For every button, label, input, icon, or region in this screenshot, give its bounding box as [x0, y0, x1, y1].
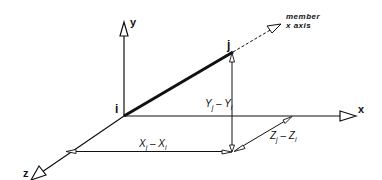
x-axis [124, 111, 356, 121]
member-x-axis-label: member x axis [286, 12, 320, 30]
member-label-line1: member [286, 12, 320, 21]
dy-var-i: Y [224, 98, 231, 109]
dz-op: – [278, 130, 289, 141]
y-axis-label: y [130, 17, 136, 28]
member-x-axis-extension [233, 24, 281, 52]
dx-label: Xj – Xi [139, 139, 167, 151]
y-axis-arrowhead-icon [120, 22, 128, 36]
dx-var-j: X [139, 138, 146, 149]
member-label-line2: x axis [286, 21, 320, 30]
dz-label: Zj – Zi [270, 131, 296, 143]
dx-arrowhead-left-icon [66, 150, 76, 154]
dy-sub-i: i [231, 104, 233, 111]
z-axis-label: z [23, 168, 29, 179]
dx-op: – [147, 138, 158, 149]
dz-arrowhead-lower-icon [234, 145, 245, 152]
member-geometry-diagram [0, 0, 382, 180]
dy-op: – [213, 98, 224, 109]
dz-sub-i: i [295, 136, 297, 143]
z-axis-arrowhead-icon [31, 166, 46, 180]
dy-label: Yj – Yi [205, 99, 232, 111]
member-axis-arrowhead-icon [267, 24, 281, 33]
dx-arrowhead-right-icon [222, 150, 232, 154]
point-i-label: i [115, 103, 118, 115]
z-axis [31, 116, 124, 180]
dx-sub-i: i [165, 144, 167, 151]
dy-var-j: Y [205, 98, 212, 109]
dz-arrowhead-upper-icon [283, 117, 292, 124]
dy-arrowhead-down-icon [230, 145, 235, 152]
x-axis-label: x [358, 104, 364, 115]
y-axis [120, 22, 128, 116]
point-j-label: j [227, 39, 230, 51]
x-axis-arrowhead-icon [340, 111, 356, 121]
